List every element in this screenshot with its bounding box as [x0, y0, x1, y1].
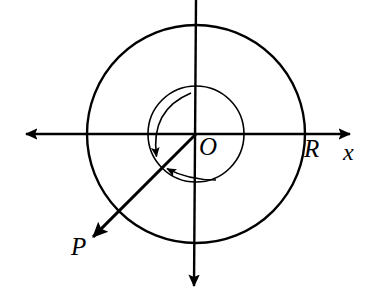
- angle-arc-outer: [156, 93, 191, 157]
- x-axis-label: x: [343, 140, 354, 164]
- vector-P-arrow: [93, 134, 196, 237]
- vector-p-label: P: [71, 234, 86, 259]
- origin-label: O: [199, 134, 217, 159]
- angle-arc-inner: [167, 169, 216, 180]
- figure-root: O R x P: [0, 0, 367, 294]
- radius-label: R: [304, 136, 319, 161]
